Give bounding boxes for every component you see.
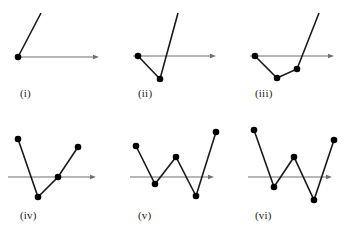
vertex-dot: [15, 136, 22, 143]
axis-arrowhead-icon: [208, 175, 214, 179]
vertex-dot: [294, 66, 301, 73]
axis-arrowhead-icon: [93, 55, 99, 59]
vertex-dot: [152, 181, 159, 188]
panel-label-4: (iv): [20, 210, 37, 221]
vertex-dot: [331, 137, 338, 144]
panel-label-5: (v): [138, 210, 151, 221]
vertex-dot: [15, 54, 22, 61]
panel-label-2: (ii): [138, 88, 152, 99]
panel-1: [15, 13, 99, 60]
figure-container: (i)(ii)(iii)(iv)(v)(vi): [0, 0, 352, 227]
panel-2: [133, 13, 216, 82]
panel-5: [130, 129, 219, 200]
path-polyline: [18, 139, 78, 197]
vertex-dot: [157, 76, 164, 83]
vertex-dot: [135, 53, 142, 60]
panel-label-1: (i): [20, 88, 31, 99]
path-polyline: [136, 132, 216, 196]
piecewise-linear-figure: [0, 0, 352, 227]
vertex-dot: [213, 129, 220, 136]
vertex-dot: [274, 75, 281, 82]
path-polyline: [138, 13, 178, 79]
axis-arrowhead-icon: [90, 175, 96, 179]
vertex-dot: [252, 53, 259, 60]
panel-6: [248, 127, 337, 204]
vertex-dot: [271, 184, 278, 191]
vertex-dot: [291, 154, 298, 161]
axis-arrowhead-icon: [210, 54, 216, 58]
panel-4: [8, 136, 96, 201]
panel-label-3: (iii): [255, 88, 273, 99]
vertex-dot: [193, 193, 200, 200]
path-polyline: [18, 13, 41, 57]
vertex-dot: [75, 144, 82, 151]
panel-label-6: (vi): [255, 210, 272, 221]
vertex-dot: [173, 154, 180, 161]
vertex-dot: [251, 127, 258, 134]
panel-3: [250, 13, 334, 81]
path-polyline: [255, 13, 319, 78]
vertex-dot: [35, 194, 42, 201]
vertex-dot: [133, 143, 140, 150]
vertex-dot: [55, 174, 62, 181]
vertex-dot: [311, 197, 318, 204]
axis-arrowhead-icon: [328, 54, 334, 58]
path-polyline: [254, 130, 334, 200]
axis-arrowhead-icon: [326, 175, 332, 179]
